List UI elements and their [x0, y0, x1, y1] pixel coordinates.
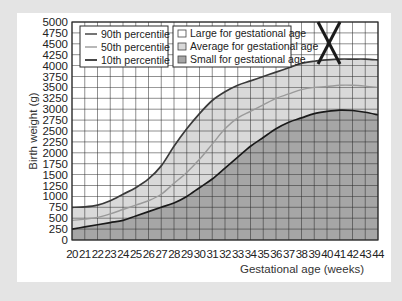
y-tick-label: 4250 — [42, 49, 68, 61]
x-tick-label: 26 — [143, 248, 155, 260]
y-tick-label: 250 — [49, 223, 68, 235]
x-tick-label: 31 — [206, 248, 218, 260]
legend-areas: Large for gestational age Average for ge… — [173, 26, 318, 67]
x-axis-label: Gestational age (weeks) — [240, 263, 364, 275]
y-tick-label: 1500 — [42, 169, 68, 181]
y-tick-label: 3750 — [42, 71, 68, 83]
legend-average-swatch — [178, 43, 186, 50]
y-axis-label: Birth weight (g) — [27, 92, 39, 170]
x-tick-label: 22 — [92, 248, 104, 260]
x-tick-label: 42 — [347, 248, 359, 260]
x-tick-label: 35 — [257, 248, 269, 260]
legend-small: Small for gestational age — [190, 53, 306, 65]
y-tick-label: 4500 — [42, 38, 68, 50]
x-tick-label: 32 — [219, 248, 231, 260]
y-tick-label: 4000 — [42, 60, 68, 72]
x-tick-label: 23 — [104, 248, 116, 260]
x-tick-label: 21 — [79, 248, 91, 260]
y-axis-ticks: 0250500750100012501500175020002250250027… — [42, 16, 68, 246]
y-tick-label: 750 — [49, 201, 68, 213]
x-tick-label: 41 — [334, 248, 346, 260]
x-tick-label: 34 — [245, 248, 258, 260]
y-tick-label: 1250 — [42, 180, 68, 192]
legend-50th: 50th percentile — [101, 41, 170, 53]
y-tick-label: 2250 — [42, 136, 68, 148]
x-tick-label: 44 — [372, 248, 385, 260]
x-tick-label: 39 — [308, 248, 320, 260]
x-tick-label: 43 — [359, 248, 371, 260]
x-tick-label: 24 — [117, 248, 130, 260]
y-tick-label: 500 — [49, 212, 68, 224]
x-axis-ticks: 2021222324252627282930313233343536373839… — [66, 248, 385, 260]
y-tick-label: 2750 — [42, 114, 68, 126]
legend-large: Large for gestational age — [190, 27, 306, 39]
x-tick-label: 25 — [130, 248, 142, 260]
x-tick-label: 38 — [296, 248, 308, 260]
x-tick-label: 20 — [66, 248, 78, 260]
x-tick-label: 37 — [283, 248, 295, 260]
y-tick-label: 3000 — [42, 103, 68, 115]
y-tick-label: 4750 — [42, 27, 68, 39]
legend-large-swatch — [178, 30, 186, 37]
x-tick-label: 33 — [232, 248, 244, 260]
legend-10th: 10th percentile — [101, 54, 170, 66]
legend-small-swatch — [178, 56, 186, 63]
y-tick-label: 0 — [62, 234, 68, 246]
birth-weight-chart: 0250500750100012501500175020002250250027… — [0, 0, 402, 301]
y-tick-label: 3500 — [42, 81, 68, 93]
y-tick-label: 5000 — [42, 16, 68, 28]
y-tick-label: 1750 — [42, 158, 68, 170]
x-tick-label: 27 — [155, 248, 167, 260]
legend-average: Average for gestational age — [190, 40, 318, 52]
y-tick-label: 2000 — [42, 147, 68, 159]
x-tick-label: 28 — [168, 248, 180, 260]
y-tick-label: 2500 — [42, 125, 68, 137]
y-tick-label: 3250 — [42, 92, 68, 104]
x-tick-label: 29 — [181, 248, 193, 260]
x-tick-label: 36 — [270, 248, 282, 260]
legend-lines: 90th percentile 50th percentile 10th per… — [80, 26, 170, 67]
x-tick-label: 30 — [194, 248, 206, 260]
y-tick-label: 1000 — [42, 190, 68, 202]
legend-90th: 90th percentile — [101, 28, 170, 40]
x-tick-label: 40 — [321, 248, 333, 260]
